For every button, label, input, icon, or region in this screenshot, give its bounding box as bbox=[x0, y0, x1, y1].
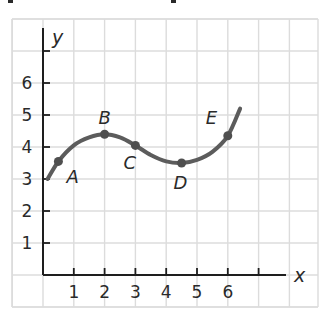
y-tick-label: 4 bbox=[22, 137, 33, 157]
x-tick-label: 6 bbox=[222, 282, 233, 302]
point-a-marker bbox=[54, 157, 63, 166]
function-graph: 123456123456 ABCDE x y bbox=[0, 0, 332, 326]
y-tick-label: 6 bbox=[22, 73, 33, 93]
y-tick-label: 5 bbox=[22, 105, 33, 125]
y-tick-label: 1 bbox=[22, 233, 33, 253]
x-axis-label: x bbox=[293, 264, 306, 286]
point-e-marker bbox=[223, 131, 232, 140]
x-tick-label: 4 bbox=[161, 282, 172, 302]
tick-labels: 123456123456 bbox=[22, 73, 234, 302]
y-tick-label: 2 bbox=[22, 201, 33, 221]
point-b-marker bbox=[100, 130, 109, 139]
x-tick-label: 1 bbox=[68, 282, 79, 302]
point-c-label: C bbox=[123, 152, 136, 173]
point-e-label: E bbox=[206, 107, 218, 128]
x-tick-label: 5 bbox=[192, 282, 203, 302]
cropped-text-fragment bbox=[8, 0, 13, 3]
point-d-label: D bbox=[174, 172, 188, 193]
point-c-marker bbox=[131, 141, 140, 150]
point-a-label: A bbox=[65, 166, 78, 187]
x-tick-label: 3 bbox=[130, 282, 141, 302]
axis-ticks bbox=[43, 51, 259, 275]
y-axis-label: y bbox=[51, 26, 64, 48]
axes bbox=[43, 28, 286, 275]
y-tick-label: 3 bbox=[22, 169, 33, 189]
point-b-label: B bbox=[99, 107, 111, 128]
point-d-marker bbox=[177, 159, 186, 168]
x-tick-label: 2 bbox=[99, 282, 110, 302]
cropped-text-fragment bbox=[171, 0, 176, 3]
